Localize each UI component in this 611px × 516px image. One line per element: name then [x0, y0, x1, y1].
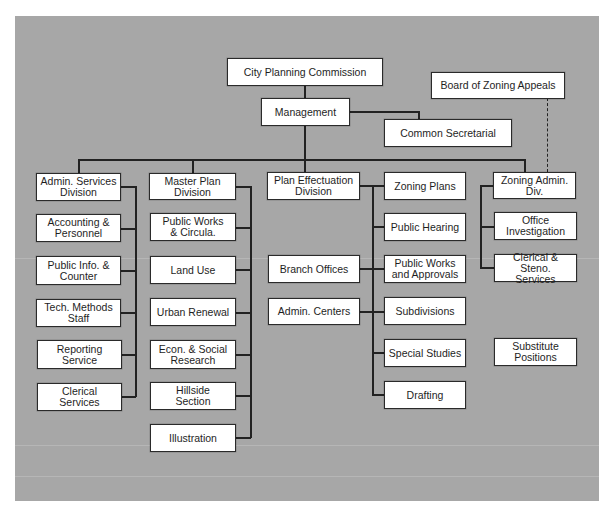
node-label: and Approvals	[392, 268, 459, 280]
node-subdivisions: Subdivisions	[384, 297, 466, 325]
scan-line	[15, 445, 599, 446]
connector-management-bar	[304, 125, 306, 160]
connector-board-dashed	[547, 98, 548, 172]
connector	[236, 227, 251, 229]
node-city-planning-commission: City Planning Commission	[227, 58, 383, 86]
node-label: Management	[275, 107, 336, 118]
connector-effectuation-drop	[304, 159, 306, 172]
connector-management-secretarial-h	[350, 111, 419, 113]
node-zoning-admin-div: Zoning Admin.Div.	[493, 172, 576, 199]
connector-commission-management	[304, 85, 306, 98]
connector-admin-spine	[135, 186, 137, 397]
node-label: Division	[60, 186, 97, 198]
connector-management-secretarial-v	[418, 111, 420, 119]
node-common-secretarial: Common Secretarial	[384, 119, 512, 147]
connector	[360, 311, 384, 313]
node-label: Subdivisions	[396, 306, 455, 317]
node-label: Staff	[68, 312, 89, 324]
node-label: Service	[62, 354, 97, 366]
scan-line	[15, 476, 599, 477]
node-illustration: Illustration	[150, 424, 236, 452]
node-public-info-counter: Public Info. &Counter	[36, 256, 121, 285]
node-label: Branch Offices	[280, 264, 349, 275]
connector-zoning-drop	[524, 159, 526, 172]
connector-effectuation-spine	[372, 185, 374, 395]
connector	[120, 186, 136, 188]
connector	[121, 312, 136, 314]
connector	[121, 354, 136, 356]
connector	[121, 270, 136, 272]
node-management: Management	[261, 98, 350, 126]
node-label: Services	[515, 273, 555, 285]
node-urban-renewal: Urban Renewal	[150, 298, 236, 326]
node-label: Land Use	[171, 265, 216, 276]
connector	[235, 186, 251, 188]
node-label: Zoning Plans	[394, 181, 455, 192]
node-reporting-service: ReportingService	[37, 340, 122, 369]
connector-master-drop	[192, 159, 194, 173]
node-label: Special Studies	[389, 348, 461, 359]
node-master-plan-division: Master PlanDivision	[149, 173, 236, 200]
node-special-studies: Special Studies	[384, 339, 466, 367]
node-board-of-zoning-appeals: Board of Zoning Appeals	[431, 72, 565, 99]
node-label: Common Secretarial	[400, 128, 496, 139]
connector	[236, 269, 251, 271]
node-label: Admin. Centers	[278, 306, 350, 317]
connector	[121, 396, 136, 398]
node-office-investigation: OfficeInvestigation	[494, 212, 577, 240]
node-label: City Planning Commission	[244, 67, 367, 78]
node-public-works-approvals: Public Worksand Approvals	[384, 255, 466, 283]
node-public-works-circulation: Public Works& Circula.	[150, 213, 236, 241]
node-label: Personnel	[55, 227, 102, 239]
node-admin-centers: Admin. Centers	[268, 298, 360, 325]
node-branch-offices: Branch Offices	[268, 255, 360, 283]
node-label: Drafting	[407, 390, 444, 401]
node-label: Section	[175, 395, 210, 407]
node-accounting-personnel: Accounting &Personnel	[36, 214, 121, 242]
node-clerical-steno-services: Clerical & Steno.Services	[494, 254, 577, 282]
connector	[236, 354, 251, 356]
connector	[480, 226, 494, 228]
node-label: Clerical & Steno.	[513, 251, 558, 274]
connector	[480, 267, 494, 269]
node-label: Illustration	[169, 433, 217, 444]
node-label: Research	[171, 354, 216, 366]
node-land-use: Land Use	[150, 256, 236, 284]
node-label: Counter	[60, 270, 97, 282]
node-clerical-services: ClericalServices	[37, 383, 122, 411]
node-public-hearing: Public Hearing	[384, 213, 466, 241]
connector-division-bar	[78, 159, 525, 161]
node-admin-services-division: Admin. ServicesDivision	[36, 173, 121, 201]
node-tech-methods-staff: Tech. MethodsStaff	[36, 299, 121, 327]
connector	[360, 268, 384, 270]
node-label: Services	[59, 396, 99, 408]
node-label: Board of Zoning Appeals	[441, 80, 556, 91]
connector	[372, 226, 384, 228]
node-label: Investigation	[506, 225, 565, 237]
node-drafting: Drafting	[384, 381, 466, 409]
node-label: Positions	[514, 351, 557, 363]
node-label: Public Hearing	[391, 222, 459, 233]
node-plan-effectuation-division: Plan EffectuationDivision	[267, 172, 360, 200]
connector	[480, 185, 494, 187]
connector	[236, 312, 251, 314]
connector	[121, 228, 136, 230]
node-label: Urban Renewal	[157, 307, 229, 318]
node-label: Division	[295, 185, 332, 197]
node-label: Division	[174, 186, 211, 198]
node-label: Div.	[526, 185, 543, 197]
connector	[372, 394, 384, 396]
node-label: & Circula.	[170, 226, 216, 238]
node-econ-social-research: Econ. & SocialResearch	[150, 340, 236, 369]
node-zoning-plans: Zoning Plans	[384, 172, 466, 200]
connector	[236, 395, 251, 397]
node-hillside-section: HillsideSection	[150, 382, 236, 410]
connector	[372, 352, 384, 354]
node-substitute-positions: SubstitutePositions	[494, 338, 577, 366]
connector	[236, 437, 251, 439]
connector-admin-drop	[78, 159, 80, 173]
